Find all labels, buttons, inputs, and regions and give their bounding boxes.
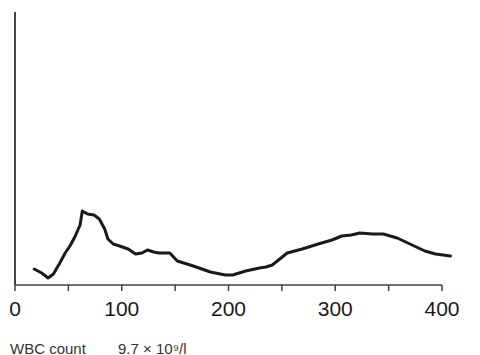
x-tick-label: 300	[318, 297, 353, 320]
x-tick-label: 0	[9, 297, 21, 320]
caption: WBC count 9.7 × 10⁹/l	[10, 340, 215, 355]
distribution-curve	[34, 211, 450, 278]
x-tick-label: 200	[211, 297, 246, 320]
x-tick-label: 100	[104, 297, 139, 320]
wbc-histogram-chart: 0100200300400	[0, 0, 480, 340]
x-axis-ticks	[15, 285, 442, 291]
caption-value: 9.7 × 10⁹/l	[118, 340, 187, 355]
x-tick-label: 400	[424, 297, 459, 320]
caption-label: WBC count	[10, 340, 86, 355]
x-axis-tick-labels: 0100200300400	[9, 297, 459, 320]
